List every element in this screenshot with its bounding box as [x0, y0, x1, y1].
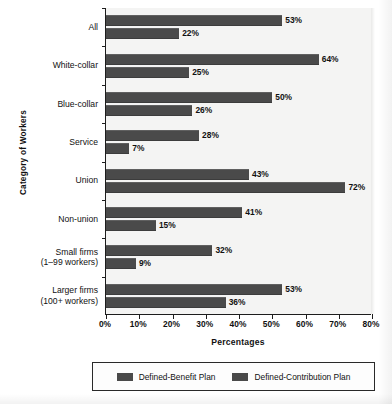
bar-group: 32%9% [106, 245, 371, 269]
y-axis-tick [102, 238, 107, 239]
y-axis-tick [102, 85, 107, 86]
bar-value-label: 50% [275, 92, 292, 103]
y-axis-tick [102, 123, 107, 124]
bar-value-label: 36% [229, 297, 246, 308]
bar-group: 50%26% [106, 92, 371, 116]
y-axis-title: Category of Workers [19, 83, 28, 223]
bar-value-label: 43% [252, 169, 269, 180]
page-edge-shadow-right [378, 0, 392, 404]
bar [106, 130, 199, 141]
bar-value-label: 26% [195, 105, 212, 116]
category-label-line: Larger firms [40, 285, 98, 296]
legend-label: Defined-Benefit Plan [139, 372, 216, 382]
y-axis-tick [102, 162, 107, 163]
bar [106, 54, 319, 65]
bar-value-label: 25% [192, 67, 209, 78]
y-axis-category-label: White-collar [53, 60, 98, 71]
plot-area: 53%22%64%25%50%26%28%7%43%72%41%15%32%9%… [105, 8, 371, 315]
y-axis-category-label: Non-union [58, 214, 98, 225]
y-axis-tick [102, 8, 107, 9]
bar [106, 15, 282, 26]
y-axis-tick [102, 46, 107, 47]
legend-label: Defined-Contribution Plan [254, 372, 350, 382]
bar-group: 64%25% [106, 54, 371, 78]
bar [106, 143, 129, 154]
bar [106, 245, 212, 256]
y-axis-category-label: Service [69, 137, 98, 148]
bar [106, 182, 345, 193]
x-axis-tick-label: 40% [221, 319, 255, 329]
x-axis-tick-label: 10% [121, 319, 155, 329]
y-axis-category-label: Blue-collar [57, 99, 98, 110]
bar-value-label: 32% [215, 245, 232, 256]
legend-item: Defined-Contribution Plan [232, 372, 350, 382]
legend-swatch [117, 373, 133, 381]
y-axis-category-label: Small firms(1–99 workers) [41, 247, 98, 268]
bar-value-label: 72% [348, 182, 365, 193]
legend-swatch [232, 373, 248, 381]
category-label-line: (100+ workers) [40, 296, 98, 307]
bar-group: 43%72% [106, 169, 371, 193]
x-axis-tick-label: 70% [321, 319, 355, 329]
category-label-line: White-collar [53, 60, 98, 71]
category-label-line: Blue-collar [57, 99, 98, 110]
bar-value-label: 41% [245, 207, 262, 218]
bar [106, 284, 282, 295]
bar [106, 220, 156, 231]
bar [106, 67, 189, 78]
bar-value-label: 22% [182, 28, 199, 39]
bar-group: 41%15% [106, 207, 371, 231]
y-axis-tick [102, 277, 107, 278]
bar-rows: 53%22%64%25%50%26%28%7%43%72%41%15%32%9%… [106, 8, 371, 314]
category-label-line: Service [69, 137, 98, 148]
bar-group: 53%36% [106, 284, 371, 308]
y-axis-category-label: Union [76, 175, 98, 186]
bar-value-label: 28% [202, 130, 219, 141]
chart-legend: Defined-Benefit PlanDefined-Contribution… [92, 362, 375, 391]
page-edge-shadow-bottom [0, 394, 392, 404]
bar-value-label: 7% [132, 143, 144, 154]
bar [106, 207, 242, 218]
bar [106, 105, 192, 116]
bar-chart-figure: Category of Workers 53%22%64%25%50%26%28… [0, 0, 392, 404]
y-axis-tick [102, 200, 107, 201]
bar [106, 28, 179, 39]
bar-group: 53%22% [106, 15, 371, 39]
bar-group: 28%7% [106, 130, 371, 154]
bar [106, 92, 272, 103]
bar-value-label: 53% [285, 284, 302, 295]
category-label-line: All [88, 22, 98, 33]
category-label-line: (1–99 workers) [41, 257, 98, 268]
bar [106, 258, 136, 269]
x-axis-tick-label: 30% [188, 319, 222, 329]
bar-value-label: 64% [322, 54, 339, 65]
category-label-line: Non-union [58, 214, 98, 225]
x-axis-title: Percentages [105, 337, 371, 347]
bar-value-label: 9% [139, 258, 151, 269]
x-axis-tick-label: 0% [88, 319, 122, 329]
x-axis-tick-label: 50% [254, 319, 288, 329]
legend-item: Defined-Benefit Plan [117, 372, 216, 382]
category-label-line: Union [76, 175, 98, 186]
bar-value-label: 53% [285, 15, 302, 26]
bar-value-label: 15% [159, 220, 176, 231]
y-axis-category-label: All [88, 22, 98, 33]
x-axis-tick-label: 20% [155, 319, 189, 329]
category-label-line: Small firms [41, 247, 98, 258]
y-axis-category-label: Larger firms(100+ workers) [40, 285, 98, 306]
bar [106, 169, 249, 180]
bar [106, 297, 226, 308]
x-axis-tick-label: 60% [288, 319, 322, 329]
x-axis-tick-label: 80% [354, 319, 388, 329]
